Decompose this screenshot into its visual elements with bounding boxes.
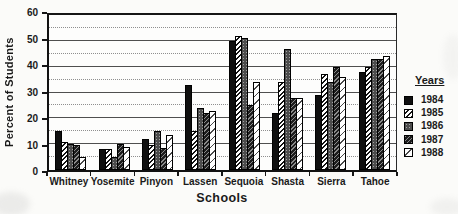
- legend-label-1985: 1985: [421, 108, 443, 118]
- x-label-sierra: Sierra: [310, 176, 354, 187]
- legend-label-1988: 1988: [421, 148, 443, 158]
- legend-swatch-1986: [404, 122, 413, 131]
- legend-swatch-1987: [404, 135, 413, 144]
- bar-group-lassen: [179, 15, 222, 170]
- legend-item-1987: 1987: [404, 135, 458, 145]
- x-axis-labels: WhitneyYosemitePinyonLassenSequoiaShasta…: [47, 176, 397, 187]
- scan-smudge: [430, 198, 458, 214]
- y-tick-label-10: 10: [14, 141, 38, 151]
- legend-item-1988: 1988: [404, 148, 458, 158]
- y-tick-label-0: 0: [14, 167, 38, 177]
- bar-group-sequoia: [223, 15, 266, 170]
- legend-swatch-1988: [404, 148, 413, 157]
- bar-sequoia-1988: [253, 82, 260, 170]
- bar-group-yosemite: [92, 15, 135, 170]
- x-label-tahoe: Tahoe: [353, 176, 397, 187]
- legend-item-1986: 1986: [404, 121, 458, 131]
- legend-items: 19841985198619871988: [404, 95, 458, 158]
- bar-whitney-1988: [79, 157, 86, 170]
- bar-sierra-1988: [339, 77, 346, 170]
- bar-group-tahoe: [353, 15, 396, 170]
- y-tick-label-20: 20: [14, 114, 38, 124]
- bar-tahoe-1988: [383, 56, 390, 170]
- bar-group-pinyon: [136, 15, 179, 170]
- bar-groups-container: [49, 15, 396, 170]
- bar-lassen-1988: [209, 111, 216, 170]
- x-axis-title: Schools: [47, 191, 397, 205]
- plot-area: [47, 13, 397, 172]
- y-tick-label-30: 30: [14, 88, 38, 98]
- y-tick-label-40: 40: [14, 61, 38, 71]
- bar-group-whitney: [49, 15, 92, 170]
- bar-shasta-1988: [296, 98, 303, 170]
- bar-group-shasta: [266, 15, 309, 170]
- legend: Years 19841985198619871988: [404, 74, 458, 161]
- legend-swatch-1985: [404, 109, 413, 118]
- x-label-shasta: Shasta: [266, 176, 310, 187]
- legend-label-1984: 1984: [421, 95, 443, 105]
- legend-label-1986: 1986: [421, 121, 443, 131]
- legend-item-1984: 1984: [404, 95, 458, 105]
- x-label-whitney: Whitney: [47, 176, 91, 187]
- y-axis: 0102030405060: [17, 13, 47, 172]
- x-label-lassen: Lassen: [178, 176, 222, 187]
- bar-yosemite-1988: [123, 147, 130, 170]
- x-label-yosemite: Yosemite: [91, 176, 135, 187]
- bar-pinyon-1988: [166, 135, 173, 170]
- legend-swatch-1984: [404, 96, 413, 105]
- legend-item-1985: 1985: [404, 108, 458, 118]
- bar-chart-figure: Percent of Students 0102030405060 Whitne…: [0, 0, 458, 214]
- x-label-pinyon: Pinyon: [135, 176, 179, 187]
- scan-smudge: [443, 34, 458, 80]
- x-label-sequoia: Sequoia: [222, 176, 266, 187]
- scan-smudge: [0, 192, 30, 214]
- y-tick-label-60: 60: [14, 8, 38, 18]
- y-tick-label-50: 50: [14, 35, 38, 45]
- bar-group-sierra: [309, 15, 352, 170]
- legend-label-1987: 1987: [421, 135, 443, 145]
